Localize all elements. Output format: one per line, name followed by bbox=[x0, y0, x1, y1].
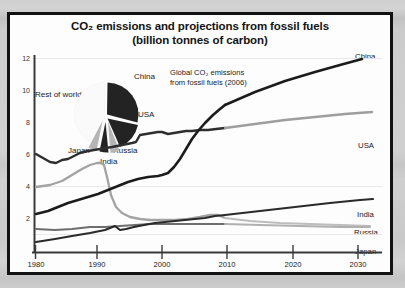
pie-slice-china bbox=[107, 83, 139, 123]
chart-svg bbox=[10, 15, 390, 272]
series-projection-india bbox=[225, 199, 373, 215]
series-projection-china bbox=[225, 59, 362, 105]
series-line-russia bbox=[36, 163, 225, 220]
chart-frame: CO₂ emissions and projections from fossi… bbox=[7, 12, 393, 275]
chart-plot-area: CO₂ emissions and projections from fossi… bbox=[10, 15, 390, 272]
series-projection-usa bbox=[225, 112, 372, 128]
pie-chart bbox=[74, 82, 138, 153]
gridlines bbox=[32, 59, 382, 235]
